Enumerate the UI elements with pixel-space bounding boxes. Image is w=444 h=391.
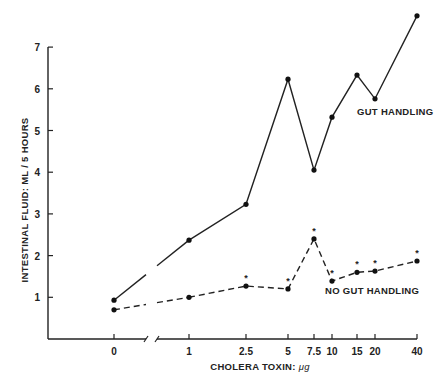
significance-asterisk: *: [312, 226, 316, 236]
data-point-marker: [111, 298, 116, 303]
significance-asterisk: *: [330, 268, 334, 278]
y-tick-label: 3: [34, 209, 40, 220]
label-no-gut-handling: NO GUT HANDLING: [325, 285, 419, 296]
significance-asterisk: *: [373, 258, 377, 268]
data-point-marker: [414, 13, 419, 18]
data-point-marker: [285, 77, 290, 82]
data-point-marker: [243, 202, 248, 207]
x-tick-label: 20: [369, 346, 381, 357]
y-tick-label: 7: [34, 42, 40, 53]
y-tick-label: 5: [34, 126, 40, 137]
axis-break-mark: [144, 336, 159, 342]
x-tick-label: 40: [411, 346, 423, 357]
significance-asterisk: *: [286, 276, 290, 286]
x-tick-label: 15: [351, 346, 363, 357]
data-point-marker: [372, 96, 377, 101]
data-point-marker: [372, 268, 377, 273]
x-tick-label: 10: [326, 346, 338, 357]
x-tick-label: 5: [285, 346, 291, 357]
x-tick-label: 7.5: [307, 346, 321, 357]
y-tick-label: 4: [34, 167, 40, 178]
data-point-marker: [354, 270, 359, 275]
data-point-marker: [354, 72, 359, 77]
y-tick-label: 6: [34, 84, 40, 95]
data-point-marker: [329, 278, 334, 283]
data-point-marker: [285, 286, 290, 291]
data-point-marker: [111, 307, 116, 312]
x-axis-title-main: CHOLERA TOXIN:: [210, 361, 298, 372]
data-point-marker: [186, 295, 191, 300]
x-axis-title: CHOLERA TOXIN: μg: [210, 361, 310, 372]
y-axis: 1234567: [34, 42, 53, 339]
y-tick-label: 2: [34, 251, 40, 262]
x-tick-label: 1: [186, 346, 192, 357]
significance-asterisk: *: [244, 273, 248, 283]
data-point-marker: [186, 238, 191, 243]
y-tick-label: 1: [34, 292, 40, 303]
y-axis-title: INTESTINAL FLUID: ML / 5 HOURS: [19, 118, 30, 283]
label-gut-handling: GUT HANDLING: [357, 106, 433, 117]
x-axis-title-unit: μg: [298, 361, 311, 372]
data-point-marker: [311, 236, 316, 241]
line-chart: 1234567 012.557.510152040 INTESTINAL FLU…: [0, 0, 444, 391]
x-tick-label: 2.5: [239, 346, 253, 357]
significance-asterisk: *: [415, 248, 419, 258]
data-point-marker: [311, 168, 316, 173]
x-axis: 012.557.510152040: [48, 334, 423, 357]
x-tick-label: 0: [111, 346, 117, 357]
significance-asterisk: *: [355, 259, 359, 269]
series-no-gut-handling: *******: [111, 226, 419, 312]
data-point-marker: [414, 258, 419, 263]
data-point-marker: [243, 283, 248, 288]
data-point-marker: [329, 115, 334, 120]
